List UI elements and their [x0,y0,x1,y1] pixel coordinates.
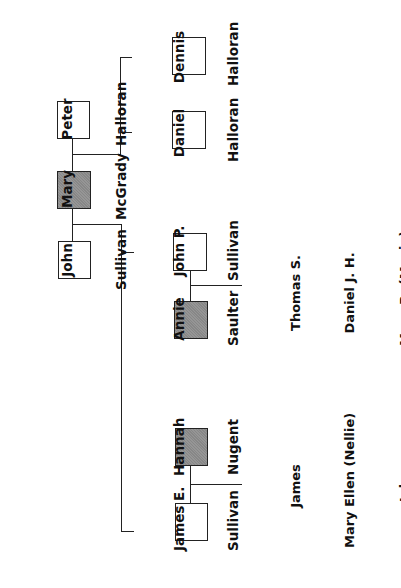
child-name: John [396,424,401,548]
label-mary-mcgrady: Mary McGrady [22,158,166,220]
label-daniel-halloran: Daniel Halloran [134,104,278,162]
line-johnp-children [190,285,242,286]
line-jamese-children [190,484,242,485]
tick-james-e [121,531,134,532]
family-tree-diagram: Peter Halloran Mary McGrady John Sulliva… [0,0,401,588]
label-dennis-halloran: Dennis Halloran [134,28,278,86]
child-name: Thomas S. [287,240,305,346]
child-name: Daniel J. H. [341,240,359,346]
children-list-james-e: James Mary Ellen (Nellie) John Hannah Da… [250,424,401,548]
child-name: Mary Ellen (Nellie) [341,424,359,548]
line-sullivan-branch [72,224,122,225]
child-name: James [287,424,305,548]
tick-dennis [120,57,132,58]
child-name: Mary R. (Mazie) [396,240,401,346]
children-list-john-p: Thomas S. Daniel J. H. Mary R. (Mazie) G… [250,240,401,346]
